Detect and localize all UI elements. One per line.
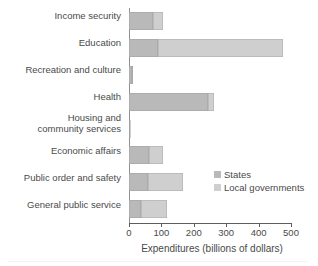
table-row: [129, 116, 291, 143]
tick-label-400: 400: [251, 227, 267, 239]
table-row: [129, 142, 291, 169]
category-axis-labels: Income security Education Recreation and…: [0, 8, 125, 223]
bar-economic-affairs[interactable]: [129, 146, 163, 164]
bar-segment-local-governments: [149, 146, 163, 164]
legend-swatch-local-governments-icon: [214, 184, 221, 191]
bar-education[interactable]: [129, 39, 283, 57]
tick-label-200: 200: [186, 227, 202, 239]
bar-income-security[interactable]: [129, 12, 163, 30]
bar-segment-states: [129, 146, 149, 164]
legend-swatch-states-icon: [214, 171, 221, 178]
category-label-public-order-and-safety: Public order and safety: [0, 173, 121, 184]
table-row: [129, 8, 291, 35]
bar-segment-states: [129, 12, 153, 30]
bar-public-order-and-safety[interactable]: [129, 173, 183, 191]
legend-label-local-governments: Local governments: [224, 182, 304, 193]
tick-label-300: 300: [218, 227, 234, 239]
table-row: [129, 62, 291, 89]
bar-chart: Income security Education Recreation and…: [0, 0, 318, 266]
tick-label-100: 100: [153, 227, 169, 239]
scan-artifact-line: [8, 261, 308, 262]
bar-housing-and-community-services[interactable]: [129, 120, 130, 138]
category-label-housing-and-community-services: Housing and community services: [0, 113, 121, 134]
category-label-education: Education: [0, 38, 121, 49]
bar-segment-local-governments: [208, 93, 214, 111]
category-label-recreation-and-culture: Recreation and culture: [0, 65, 121, 76]
category-label-income-security: Income security: [0, 11, 121, 22]
legend: States Local governments: [214, 169, 304, 195]
bar-segment-local-governments: [141, 200, 167, 218]
table-row: [129, 89, 291, 116]
category-label-economic-affairs: Economic affairs: [0, 146, 121, 157]
bar-segment-local-governments: [153, 12, 163, 30]
bar-segment-local-governments: [148, 173, 183, 191]
bar-general-public-service[interactable]: [129, 200, 167, 218]
bar-segment-states: [129, 200, 141, 218]
x-axis-title: Expenditures (billions of dollars): [129, 243, 295, 254]
bar-segment-local-governments: [132, 66, 133, 84]
tick-label-500: 500: [283, 227, 299, 239]
bar-health[interactable]: [129, 93, 214, 111]
bar-segment-local-governments: [158, 39, 283, 57]
bar-segment-states: [129, 93, 208, 111]
bar-recreation-and-culture[interactable]: [129, 66, 133, 84]
legend-item-local-governments[interactable]: Local governments: [214, 182, 304, 193]
tick-label-0: 0: [126, 227, 131, 239]
x-axis-ticks: 0 100 200 300 400 500: [129, 223, 292, 239]
bar-segment-states: [129, 173, 148, 191]
table-row: [129, 35, 291, 62]
category-label-health: Health: [0, 92, 121, 103]
category-label-general-public-service: General public service: [0, 200, 121, 211]
legend-item-states[interactable]: States: [214, 169, 304, 180]
legend-label-states: States: [224, 169, 251, 180]
table-row: [129, 196, 291, 223]
bar-segment-states: [129, 39, 158, 57]
